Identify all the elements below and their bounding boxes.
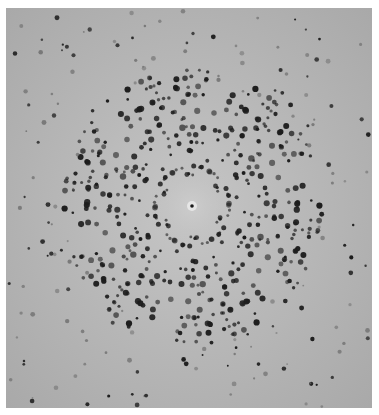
diffraction-spot [213, 128, 218, 133]
diffraction-spot [181, 357, 186, 362]
diffraction-spot [149, 148, 152, 151]
diffraction-spot [147, 76, 152, 81]
diffraction-spot [272, 325, 274, 327]
diffraction-spot [131, 153, 137, 159]
diffraction-spot [88, 274, 94, 280]
diffraction-spot [127, 358, 132, 363]
diffraction-spot [32, 397, 34, 399]
diffraction-spot [278, 214, 283, 219]
diffraction-spot [272, 100, 277, 105]
diffraction-spot [294, 207, 300, 213]
diffraction-spot [117, 305, 120, 308]
diffraction-spot [191, 32, 194, 35]
diffraction-spot [344, 180, 347, 183]
diffraction-spot [40, 239, 45, 244]
diffraction-spot [217, 75, 219, 77]
diffraction-spot [112, 278, 116, 282]
diffraction-spot [259, 295, 265, 301]
diffraction-spot [131, 169, 136, 174]
diffraction-spot [141, 303, 146, 308]
diffraction-spot [156, 222, 161, 227]
diffraction-spot [186, 42, 189, 45]
diffraction-spot [249, 237, 254, 242]
diffraction-spot [293, 185, 299, 191]
diffraction-spot [75, 264, 78, 267]
diffraction-spot [241, 327, 247, 333]
diffraction-spot [343, 244, 346, 247]
diffraction-spot [85, 402, 89, 406]
diffraction-spot [232, 332, 237, 337]
diffraction-spot [98, 257, 103, 262]
diffraction-spot [185, 125, 188, 128]
diffraction-spot [243, 211, 246, 214]
diffraction-spot [320, 405, 323, 408]
diffraction-spot [13, 51, 18, 56]
diffraction-spot [124, 137, 129, 142]
diffraction-spot [94, 138, 100, 144]
diffraction-spot [186, 93, 189, 96]
diffraction-spot [144, 25, 147, 28]
diffraction-spot [173, 76, 179, 82]
diffraction-spot [304, 267, 308, 271]
diffraction-spot [285, 188, 290, 193]
diffraction-spot [265, 254, 271, 260]
diffraction-spot [235, 113, 239, 117]
diffraction-spot [202, 347, 206, 351]
diffraction-spot [256, 268, 261, 273]
diffraction-spot [237, 321, 240, 324]
diffraction-spot [265, 192, 269, 196]
diffraction-spot [193, 259, 198, 264]
diffraction-spot [153, 255, 157, 259]
diffraction-spot [247, 93, 250, 96]
diffraction-spot [253, 377, 255, 379]
diffraction-spot [184, 268, 188, 272]
diffraction-spot [115, 43, 119, 47]
diffraction-spot [220, 240, 224, 244]
diffraction-spot [296, 282, 299, 285]
diffraction-spot [93, 281, 99, 287]
diffraction-spot [91, 170, 95, 174]
diffraction-spot [235, 195, 239, 199]
diffraction-spot [261, 102, 264, 105]
diffraction-spot [282, 366, 286, 370]
diffraction-spot [297, 138, 299, 140]
diffraction-spot [67, 240, 69, 242]
diffraction-spot [71, 211, 74, 214]
diffraction-spot [226, 99, 232, 105]
diffraction-spot [201, 242, 204, 245]
diffraction-spot [270, 299, 275, 304]
diffraction-spot [326, 162, 331, 167]
diffraction-spot [137, 173, 141, 177]
diffraction-spot [138, 79, 144, 85]
diffraction-spot [216, 78, 220, 82]
diffraction-spot [299, 306, 304, 311]
diffraction-spot [142, 178, 147, 183]
diffraction-spot [169, 153, 172, 156]
diffraction-spot [276, 270, 279, 273]
diffraction-spot [134, 227, 137, 230]
diffraction-spot [236, 267, 240, 271]
diffraction-spot [83, 130, 86, 133]
diffraction-spot [87, 180, 90, 183]
diffraction-spot [73, 171, 77, 175]
diffraction-spot [246, 333, 249, 336]
diffraction-spot [242, 90, 245, 93]
diffraction-spot [167, 145, 171, 149]
diffraction-spot [225, 318, 228, 321]
diffraction-spot [66, 287, 70, 291]
diffraction-spot [209, 236, 214, 241]
diffraction-spot [67, 260, 71, 264]
diffraction-spot [172, 237, 177, 242]
diffraction-spot [190, 124, 195, 129]
diffraction-spot [165, 189, 168, 192]
diffraction-spot [162, 279, 166, 283]
diffraction-spot [326, 59, 331, 64]
diffraction-spot [240, 133, 245, 138]
diffraction-spot [181, 167, 184, 170]
diffraction-spot [331, 376, 334, 379]
diffraction-spot [76, 153, 80, 157]
diffraction-spot [316, 384, 318, 386]
diffraction-spot [136, 370, 140, 374]
diffraction-spot [306, 124, 309, 127]
diffraction-spot [184, 172, 189, 177]
